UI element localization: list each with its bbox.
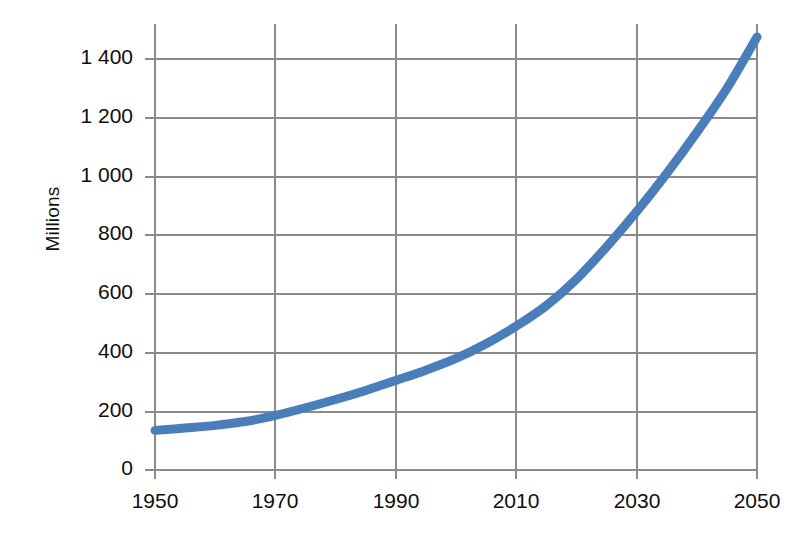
x-tick-label-2050: 2050 xyxy=(697,489,792,513)
x-tick-label-2010: 2010 xyxy=(456,489,576,513)
y-tick-label-400: 400 xyxy=(13,339,133,363)
x-tick-label-1990: 1990 xyxy=(336,489,456,513)
line-chart-figure: Millions 1 400 1 200 1 000 800 600 400 2… xyxy=(0,0,792,544)
y-tick-label-1200: 1 200 xyxy=(13,104,133,128)
y-axis-tick-marks xyxy=(145,59,155,470)
x-tick-label-1950: 1950 xyxy=(95,489,215,513)
y-tick-label-200: 200 xyxy=(13,398,133,422)
x-tick-label-2030: 2030 xyxy=(577,489,697,513)
series-line-millions xyxy=(155,37,757,430)
y-tick-label-600: 600 xyxy=(13,280,133,304)
y-tick-label-800: 800 xyxy=(13,221,133,245)
y-tick-label-1000: 1 000 xyxy=(13,163,133,187)
y-tick-label-1400: 1 400 xyxy=(13,45,133,69)
vertical-gridlines xyxy=(155,24,757,479)
y-tick-label-0: 0 xyxy=(13,456,133,480)
x-tick-label-1970: 1970 xyxy=(215,489,335,513)
horizontal-gridlines xyxy=(155,59,757,470)
